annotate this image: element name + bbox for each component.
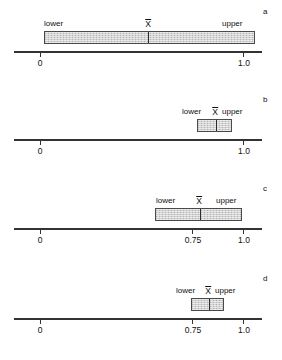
panel-b: b lower X upper 0 1.0 (0, 88, 282, 178)
panel-a-axis (14, 51, 262, 53)
panel-a-tick-label-0: 0 (38, 59, 43, 68)
panel-d-mean-marker (209, 299, 210, 310)
panel-b-tick-label-0: 0 (38, 147, 43, 156)
panel-d-mean-symbol: X (205, 286, 211, 296)
panel-c-axis (14, 228, 262, 230)
panel-c-lower-label: lower (156, 197, 175, 205)
panel-b-upper-label: upper (222, 108, 242, 116)
panel-letter-a: a (263, 8, 267, 16)
panel-d-interval-bar (191, 298, 224, 311)
panel-c-tick-label-075: 0.75 (185, 236, 202, 245)
panel-d-lower-label: lower (176, 287, 195, 295)
panel-a-lower-label: lower (44, 20, 63, 28)
panel-c-mean-symbol: X (196, 196, 202, 206)
panel-d-tick-0 (40, 320, 41, 324)
panel-c-tick-label-1: 1.0 (238, 236, 250, 245)
panel-b-tick-label-1: 1.0 (238, 147, 250, 156)
panel-d-axis (14, 318, 262, 320)
panel-c-mean-label: X (196, 196, 202, 206)
panel-d-tick-label-0: 0 (38, 326, 43, 335)
panel-d: d lower X upper 0 0.75 1.0 (0, 267, 282, 357)
panel-a-upper-label: upper (222, 20, 242, 28)
panel-d-upper-label: upper (215, 287, 235, 295)
panel-a-tick-1 (243, 53, 244, 57)
panel-b-interval-bar (197, 119, 232, 132)
panel-d-tick-1 (243, 320, 244, 324)
panel-a-interval-bar (44, 31, 255, 44)
panel-b-mean-symbol: X (212, 107, 218, 117)
panel-c-mean-marker (200, 209, 201, 220)
panel-a-tick-label-1: 1.0 (238, 59, 250, 68)
panel-c-upper-label: upper (216, 197, 236, 205)
panel-d-tick-075 (192, 320, 193, 324)
panel-b-mean-label: X (212, 107, 218, 117)
panel-d-tick-label-1: 1.0 (238, 326, 250, 335)
panel-d-tick-label-075: 0.75 (185, 326, 202, 335)
panel-d-mean-label: X (205, 286, 211, 296)
panel-b-mean-marker (216, 120, 217, 131)
confidence-interval-figure: a lower X upper 0 1.0 b lower X upper 0 … (0, 0, 282, 360)
panel-a-tick-0 (40, 53, 41, 57)
panel-b-tick-1 (243, 141, 244, 145)
panel-c-tick-1 (243, 230, 244, 234)
panel-a-mean-symbol: X (145, 19, 151, 29)
panel-b-lower-label: lower (182, 108, 201, 116)
panel-letter-b: b (263, 96, 267, 104)
panel-c: c lower X upper 0 0.75 1.0 (0, 177, 282, 267)
panel-letter-c: c (263, 185, 267, 193)
panel-a: a lower X upper 0 1.0 (0, 0, 282, 90)
panel-b-tick-0 (40, 141, 41, 145)
panel-a-mean-marker (148, 32, 149, 43)
panel-c-tick-label-0: 0 (38, 236, 43, 245)
panel-c-tick-075 (192, 230, 193, 234)
panel-c-interval-bar (155, 208, 242, 221)
panel-letter-d: d (263, 275, 267, 283)
panel-c-tick-0 (40, 230, 41, 234)
panel-a-mean-label: X (145, 19, 151, 29)
panel-b-axis (14, 139, 262, 141)
